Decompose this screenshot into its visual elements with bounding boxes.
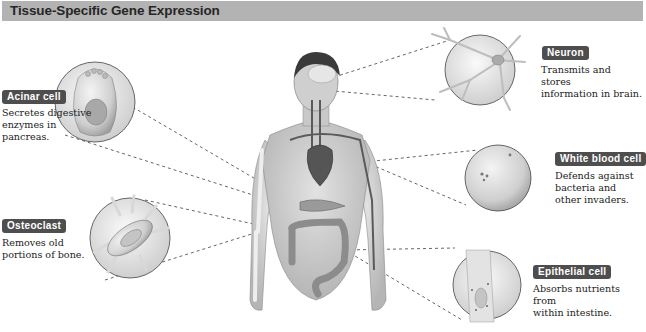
acinar-cell-description: Secretes digestive enzymes in pancreas. [2,107,91,143]
white-blood-cell-illustration [465,145,531,211]
epithelial-cell-description: Absorbs nutrients from within intestine. [533,283,643,319]
acinar-cell-label: Acinar cell [2,90,66,104]
epithelial-cell-label: Epithelial cell [533,265,611,279]
connector-epithelial-bottom [345,250,462,320]
connector-wbc-top [365,150,478,162]
osteoclast-label: Osteoclast [2,219,66,233]
osteoclast-illustration [90,196,170,278]
connector-epithelial-top [345,248,455,250]
brain [308,65,336,83]
epithelial-cell-illustration [453,250,521,322]
neuron-label: Neuron [542,46,589,60]
neuron-description: Transmits and stores information in brai… [541,64,643,100]
neuron-illustration [432,28,525,110]
white-blood-cell-label: White blood cell [555,152,646,166]
human-figure [250,52,386,310]
osteoclast-description: Removes old portions of bone. [2,237,85,261]
white-blood-cell-description: Defends against bacteria and other invad… [555,170,634,206]
